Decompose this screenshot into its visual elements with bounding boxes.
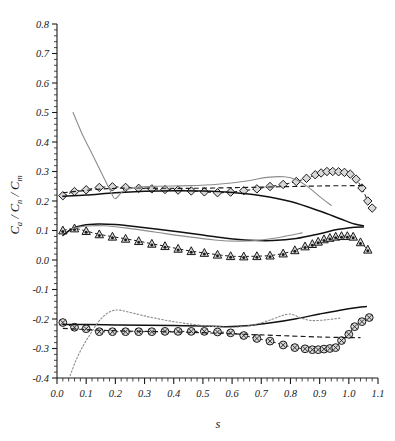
marker-triangle-center (242, 256, 245, 259)
chart-canvas: 0.80.70.60.50.40.30.20.10.0-0.1-0.2-0.3-… (0, 0, 395, 441)
marker-triangle-center (293, 250, 296, 253)
marker-triangle-center (304, 246, 307, 249)
y-tick-label: 0.4 (36, 137, 50, 148)
y-tick-label: 0.2 (36, 196, 50, 207)
marker-triangle-center (311, 244, 314, 247)
series-Ca-gray-dotted (70, 310, 340, 376)
marker-triangle-center (163, 246, 166, 249)
marker-diamond (279, 180, 287, 188)
y-tick-label: -0.4 (32, 373, 49, 384)
marker-triangle-center (334, 236, 337, 239)
y-tick-label: -0.3 (32, 343, 49, 354)
marker-triangle-center (98, 234, 101, 237)
curve-dashed (63, 328, 361, 337)
marker-diamond (302, 174, 310, 182)
marker-triangle-center (340, 236, 343, 239)
marker-diamond (352, 175, 360, 183)
marker-triangle-center (85, 231, 88, 234)
y-tick-label: 0.3 (36, 166, 49, 177)
x-tick-label: 0.3 (138, 388, 151, 399)
curve-solid (63, 307, 366, 327)
marker-triangle-center (137, 241, 140, 244)
y-tick-label: -0.1 (32, 284, 49, 295)
data-series (59, 113, 377, 376)
x-tick-label: 0.5 (196, 388, 209, 399)
y-tick-label: 0.6 (36, 78, 50, 89)
x-tick-label: 0.9 (313, 388, 327, 399)
x-tick-label: 0.4 (167, 388, 181, 399)
marker-diamond (121, 183, 129, 191)
curve-gray-dotted (70, 310, 340, 376)
marker-triangle-center (282, 253, 285, 256)
y-tick-label: -0.2 (32, 314, 49, 325)
x-tick-label: 0.2 (109, 388, 123, 399)
series-Ca-dashed-fit (63, 328, 361, 337)
marker-triangle-center (203, 253, 206, 256)
marker-triangle-center (317, 241, 320, 244)
marker-diamond (253, 185, 261, 193)
marker-diamond (368, 204, 376, 212)
y-tick-label: 0.5 (36, 107, 49, 118)
marker-triangle-center (269, 255, 272, 258)
y-axis-title: Ca / Cn / Cm (8, 175, 24, 234)
marker-diamond (95, 183, 103, 191)
marker-triangle-center (346, 236, 349, 239)
marker-triangle-center (255, 256, 258, 259)
y-tick-label: 0.1 (36, 225, 49, 236)
marker-triangle-center (229, 256, 232, 259)
marker-triangle-center (366, 249, 369, 252)
marker-triangle-center (216, 254, 219, 257)
x-tick-label: 0.6 (226, 388, 240, 399)
svg-text:Ca / Cn / Cm: Ca / Cn / Cm (8, 175, 24, 234)
x-tick-label: 0.0 (50, 388, 64, 399)
marker-triangle-center (359, 242, 362, 245)
marker-diamond (364, 197, 372, 205)
x-tick-label: 1.1 (371, 388, 384, 399)
marker-diamond (213, 189, 221, 197)
marker-triangle-center (124, 238, 127, 241)
series-Cn-markers (59, 167, 377, 212)
x-tick-label: 1.0 (342, 388, 356, 399)
series-Cm-markers (59, 224, 372, 260)
y-tick-label: 0.7 (36, 48, 50, 59)
marker-triangle-center (328, 237, 331, 240)
chart-figure: 0.80.70.60.50.40.30.20.10.0-0.1-0.2-0.3-… (0, 0, 395, 441)
marker-triangle-center (352, 236, 355, 239)
series-Ca-solid-black (63, 307, 366, 327)
marker-triangle-center (190, 251, 193, 254)
x-tick-label: 0.1 (80, 388, 93, 399)
marker-triangle-center (150, 243, 153, 246)
marker-triangle-center (111, 236, 114, 239)
y-tick-label: 0.8 (36, 19, 50, 30)
x-tick-label: 0.8 (284, 388, 298, 399)
y-tick-label: 0.0 (36, 255, 50, 266)
marker-triangle-center (61, 230, 64, 233)
x-axis-title: s (216, 417, 221, 431)
marker-triangle-center (177, 248, 180, 251)
x-tick-label: 0.7 (255, 388, 269, 399)
